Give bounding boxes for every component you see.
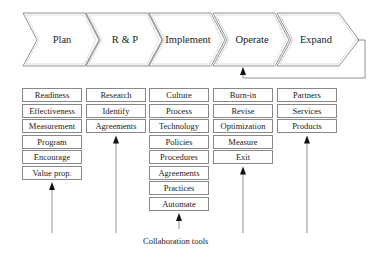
activity-box: Policies — [149, 135, 209, 149]
column-arrowhead-icon — [240, 167, 246, 175]
activity-box: Partners — [277, 88, 337, 102]
column-arrowhead-icon — [113, 136, 119, 144]
activity-box: Burn-in — [213, 88, 273, 102]
stage-label-expand: Expand — [300, 34, 333, 45]
activity-box: Optimization — [213, 119, 273, 133]
stage-label-operate: Operate — [235, 34, 269, 45]
activity-box: Exit — [213, 150, 273, 164]
activity-box: Technology — [149, 119, 209, 133]
activity-box: Measurement — [22, 119, 82, 133]
activity-box: Products — [277, 119, 337, 133]
stage-label-implement: Implement — [165, 34, 211, 45]
activity-box: Practices — [149, 181, 209, 195]
activity-box: Culture — [149, 88, 209, 102]
activity-box: Program — [22, 135, 82, 149]
activity-box: Identify — [86, 104, 146, 118]
activity-box: Automate — [149, 197, 209, 211]
activity-box: Revise — [213, 104, 273, 118]
stage-label-plan: Plan — [53, 34, 72, 45]
collaboration-tools-caption: Collaboration tools — [143, 236, 208, 246]
activity-box: Value prop. — [22, 166, 82, 180]
activity-box: Agreements — [149, 166, 209, 180]
column-arrowhead-icon — [304, 136, 310, 144]
activity-box: Procedures — [149, 150, 209, 164]
activity-box: Measure — [213, 135, 273, 149]
activity-box: Effectiveness — [22, 104, 82, 118]
stage-label-r-p: R & P — [112, 34, 138, 45]
activity-box: Process — [149, 104, 209, 118]
activity-box: Agreements — [86, 119, 146, 133]
column-arrowhead-icon — [176, 213, 182, 221]
feedback-arrowhead-icon — [240, 67, 246, 75]
activity-box: Research — [86, 88, 146, 102]
activity-box: Readiness — [22, 88, 82, 102]
activity-box: Services — [277, 104, 337, 118]
activity-box: Encourage — [22, 150, 82, 164]
column-arrowhead-icon — [49, 182, 55, 190]
